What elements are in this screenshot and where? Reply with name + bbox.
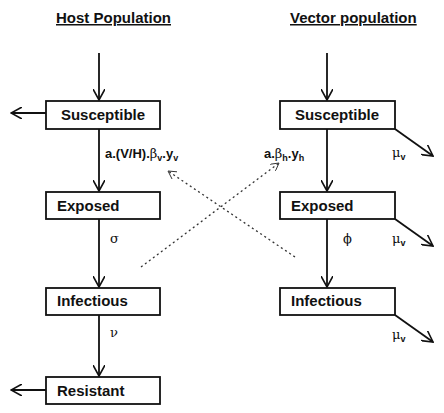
- vector-to-host-transmission-arrow: [168, 171, 295, 257]
- seir-transmission-diagram: Host Population Vector population Suscep…: [0, 0, 444, 413]
- vector-infection-rate: a.βh.yh: [264, 146, 304, 163]
- host-infectious-label: Infectious: [57, 292, 128, 309]
- host-resistant-label: Resistant: [57, 382, 125, 399]
- vector-exposed-label: Exposed: [291, 197, 354, 214]
- vector-incubation-rate: ϕ: [343, 231, 352, 246]
- vector-infectious-label: Infectious: [291, 292, 362, 309]
- vector-exposed-mortality-rate: μv: [392, 231, 405, 248]
- vector-susceptible-mortality-rate: μv: [392, 145, 405, 162]
- host-recovery-rate: ν: [110, 325, 118, 340]
- host-infection-rate: a.(V/H).βv.yv: [105, 146, 178, 163]
- vector-susceptible-label: Susceptible: [295, 106, 379, 123]
- vector-infectious-mortality-rate: μv: [392, 327, 405, 344]
- host-exposed-label: Exposed: [57, 197, 120, 214]
- host-population-title: Host Population: [56, 9, 171, 26]
- host-susceptible-label: Susceptible: [61, 106, 145, 123]
- host-column: Susceptible a.(V/H).βv.yv Exposed σ Infe…: [11, 53, 178, 404]
- vector-column: Susceptible μv a.βh.yh Exposed μv ϕ Infe…: [264, 53, 433, 344]
- host-incubation-rate: σ: [110, 231, 119, 246]
- vector-population-title: Vector population: [290, 9, 417, 26]
- host-to-vector-transmission-arrow: [141, 163, 279, 267]
